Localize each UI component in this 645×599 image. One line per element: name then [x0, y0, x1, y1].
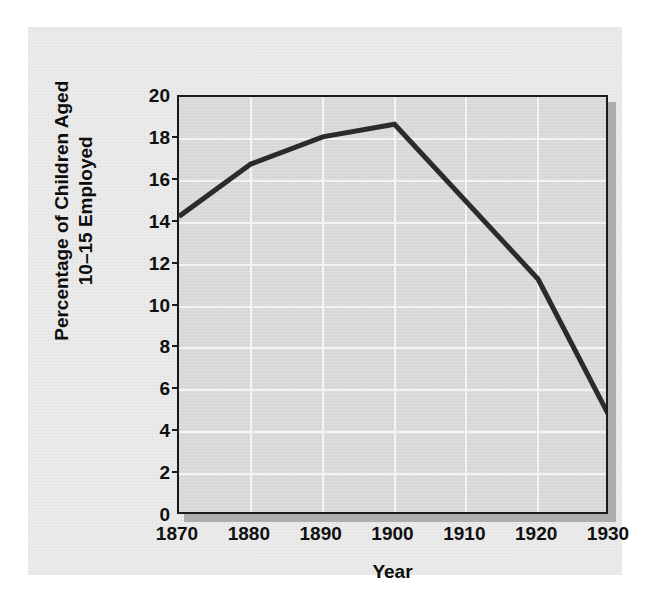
x-axis-title: Year	[177, 561, 608, 583]
y-tick-mark	[172, 429, 178, 431]
series-line-employment	[179, 124, 608, 417]
y-tick-mark	[172, 262, 178, 264]
plot-area	[177, 95, 608, 514]
x-tick-label: 1900	[371, 524, 413, 543]
y-axis-ticks: 02468101214161820	[120, 95, 170, 514]
y-tick-mark	[172, 220, 178, 222]
x-tick-label: 1930	[587, 524, 629, 543]
y-axis-title: Percentage of Children Aged 10–15 Employ…	[50, 61, 98, 361]
series-line-chart	[179, 97, 608, 514]
x-tick-label: 1880	[228, 524, 270, 543]
y-axis-title-line-1: Percentage of Children Aged	[50, 61, 74, 361]
y-axis-title-line-2: 10–15 Employed	[74, 61, 98, 361]
x-tick-label: 1870	[156, 524, 198, 543]
x-axis-ticks: 1870188018901900191019201930	[177, 524, 608, 554]
y-tick-label: 4	[159, 421, 170, 440]
y-tick-mark	[172, 178, 178, 180]
y-tick-label: 18	[149, 128, 170, 147]
y-tick-mark	[172, 471, 178, 473]
y-tick-label: 6	[159, 379, 170, 398]
y-tick-label: 8	[159, 337, 170, 356]
y-tick-label: 0	[159, 505, 170, 524]
y-tick-label: 20	[149, 86, 170, 105]
y-tick-label: 14	[149, 212, 170, 231]
chart-figure: 02468101214161820 1870188018901900191019…	[28, 27, 622, 575]
y-tick-label: 10	[149, 296, 170, 315]
y-tick-mark	[172, 345, 178, 347]
y-tick-label: 2	[159, 463, 170, 482]
y-tick-mark	[172, 304, 178, 306]
x-tick-label: 1910	[443, 524, 485, 543]
y-tick-label: 16	[149, 170, 170, 189]
y-tick-mark	[172, 136, 178, 138]
x-tick-label: 1890	[300, 524, 342, 543]
x-tick-label: 1920	[515, 524, 557, 543]
y-tick-label: 12	[149, 254, 170, 273]
y-tick-mark	[172, 387, 178, 389]
